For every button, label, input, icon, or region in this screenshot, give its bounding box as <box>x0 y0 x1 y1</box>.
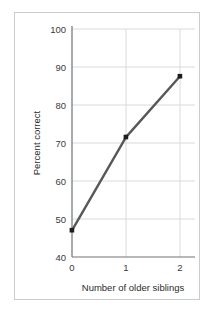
y-tick-labels: 100 90 80 70 60 50 40 <box>50 24 66 263</box>
line-chart: 100 90 80 70 60 50 40 0 1 2 Number of ol… <box>0 0 214 313</box>
y-tick-label: 40 <box>55 252 66 263</box>
axis-lines <box>72 26 195 257</box>
x-tick-label: 1 <box>123 262 128 273</box>
y-tick-label: 70 <box>55 138 66 149</box>
horizontal-gridlines <box>72 29 195 219</box>
data-point-marker <box>70 228 75 233</box>
data-point-marker <box>124 135 129 140</box>
y-tick-label: 50 <box>55 214 66 225</box>
y-tick-label: 100 <box>50 24 66 35</box>
y-tick-label: 80 <box>55 100 66 111</box>
y-tick-label: 60 <box>55 176 66 187</box>
x-tick-label: 0 <box>69 262 74 273</box>
x-axis-title: Number of older siblings <box>82 282 185 293</box>
x-tick-label: 2 <box>177 262 182 273</box>
data-point-marker <box>178 74 183 79</box>
chart-figure: 100 90 80 70 60 50 40 0 1 2 Number of ol… <box>0 0 214 313</box>
x-tick-labels: 0 1 2 <box>69 262 182 273</box>
y-tick-label: 90 <box>55 62 66 73</box>
y-axis-title: Percent correct <box>31 110 42 175</box>
